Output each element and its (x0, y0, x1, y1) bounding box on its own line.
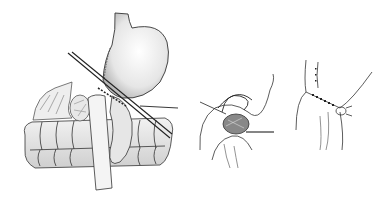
panel-suture-closure (200, 74, 274, 168)
panel-stomach-stapler (24, 13, 178, 190)
illustration-canvas (0, 0, 390, 198)
surgical-illustration (0, 0, 390, 198)
mesentery-drawing (33, 82, 90, 121)
panel-completed-anastomosis (296, 60, 372, 150)
